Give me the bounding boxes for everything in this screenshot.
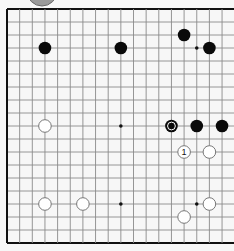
white-stone [39,198,52,211]
black-stone-icon [216,120,229,133]
black-stone-icon [39,42,52,55]
black-stone [115,42,128,55]
white-stone [203,198,216,211]
white-stone-icon [178,211,191,224]
white-stone [39,120,52,133]
black-stone [165,120,178,133]
black-stone [178,29,191,42]
star-point-icon [195,202,199,206]
go-diagram: 1 [0,0,234,251]
black-stone [216,120,229,133]
white-stone [203,146,216,159]
black-stone [39,42,52,55]
white-stone-icon [39,198,52,211]
move-number-label: 1 [182,147,187,157]
star-point-icon [195,46,199,50]
black-stone [203,42,216,55]
white-stone: 1 [178,146,191,159]
black-stone-icon [190,120,203,133]
black-stone [190,120,203,133]
star-point-icon [119,202,123,206]
black-stone-icon [203,42,216,55]
top-player-indicator [27,0,57,6]
white-stone-icon [203,198,216,211]
black-stone-icon [115,42,128,55]
black-stone-icon [165,120,178,133]
black-stone-icon [178,29,191,42]
star-point-icon [119,124,123,128]
white-stone-icon [77,198,90,211]
white-stone [77,198,90,211]
white-stone-icon [203,146,216,159]
player-indicator-icon [27,0,57,6]
white-stone-icon [39,120,52,133]
go-board: 1 [0,0,234,251]
white-stone [178,211,191,224]
